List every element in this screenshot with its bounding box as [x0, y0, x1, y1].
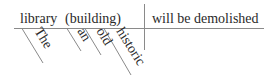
predicate-words: will be demolished: [152, 11, 259, 26]
modifier-historic: historic: [113, 25, 148, 69]
subject-appositive: (building): [65, 11, 121, 27]
modifier-an: an: [74, 25, 94, 44]
diagram-canvas: library (building) will be demolished Th…: [0, 0, 274, 81]
sentence-diagram: library (building) will be demolished Th…: [0, 0, 274, 81]
subject-word: library: [20, 11, 57, 26]
